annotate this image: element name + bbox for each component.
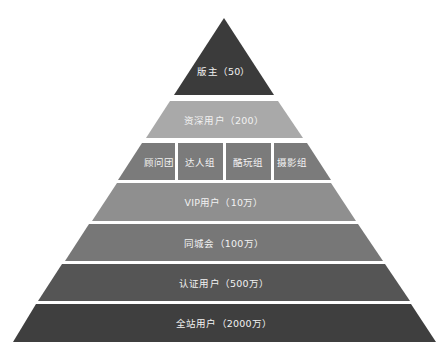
tier-apex [174,18,274,95]
subgroup-label-3: 酷玩组 [233,155,264,169]
apex-label: 版主（50） [197,64,250,78]
subgroup-label-1: 顾问团 [144,155,175,169]
all-users-label: 全站用户（2000万） [176,316,272,330]
senior-label: 资深用户（200） [184,113,264,127]
vip-label: VIP用户（10万） [184,195,263,209]
city-label: 同城会（100万） [184,236,264,250]
verified-label: 认证用户（500万） [179,276,269,290]
pyramid-diagram [0,0,447,352]
subgroup-label-2: 达人组 [185,155,216,169]
subgroup-label-4: 摄影组 [277,155,308,169]
